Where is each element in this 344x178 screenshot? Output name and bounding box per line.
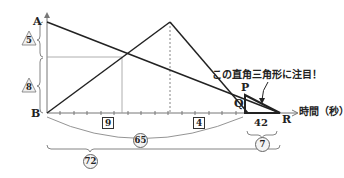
line-b-to-peak bbox=[47, 22, 170, 113]
brace-total bbox=[47, 145, 280, 152]
annotation-text: この直角三角形に注目！ bbox=[212, 70, 322, 80]
point-p-label: P bbox=[241, 82, 249, 93]
ratio-72-circle: 72 bbox=[83, 154, 98, 169]
ratio-8-label: 8 bbox=[21, 83, 37, 92]
point-r-label: R bbox=[282, 114, 291, 125]
point-a-label: A bbox=[33, 16, 42, 27]
y-axis-arrow-icon bbox=[44, 12, 50, 18]
point-b-label: B bbox=[31, 108, 40, 119]
ratio-65-circle: 65 bbox=[133, 133, 148, 148]
ratio-5-label: 5 bbox=[21, 36, 37, 45]
diagram-canvas bbox=[0, 0, 344, 178]
ratio-7-circle: 7 bbox=[255, 137, 270, 152]
segment-box-9: 9 bbox=[102, 117, 114, 129]
qr-time-value: 42 bbox=[254, 118, 268, 128]
brace-left-lower bbox=[37, 58, 43, 113]
point-q-label: Q bbox=[234, 98, 244, 109]
annotation-arrow bbox=[262, 82, 268, 100]
segment-box-4: 4 bbox=[193, 117, 205, 129]
x-axis-label: 時間（秒） bbox=[299, 107, 344, 117]
